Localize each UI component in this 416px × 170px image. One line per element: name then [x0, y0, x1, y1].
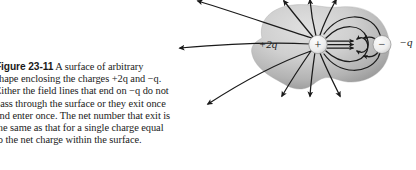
caption-line-1-text: A surface of arbitrary — [55, 61, 143, 72]
figure-caption: Figure 23-11 A surface of arbitrary shap… — [0, 61, 210, 146]
negative-charge: − — [373, 36, 391, 54]
caption-line-1: Figure 23-11 A surface of arbitrary — [0, 61, 210, 73]
figure-number: Figure 23-11 — [0, 61, 53, 72]
figure-panel: + − +2q −q Figure 23-11 A surface of arb… — [0, 0, 416, 170]
negative-charge-symbol: − — [379, 37, 386, 51]
positive-charge: + — [309, 35, 327, 53]
caption-line-3: Either the field lines that end on −q do… — [0, 85, 210, 97]
caption-line-2: shape enclosing the charges +2q and −q. — [0, 73, 210, 85]
caption-line-6: the same as that for a single charge equ… — [0, 122, 210, 134]
positive-charge-symbol: + — [315, 38, 322, 52]
positive-charge-label: +2q — [259, 38, 278, 50]
caption-line-7: to the net charge within the surface. — [0, 134, 210, 146]
caption-line-4: pass through the surface or they exit on… — [0, 98, 210, 110]
negative-charge-label: −q — [400, 36, 413, 48]
caption-line-5: and enter once. The net number that exit… — [0, 110, 210, 122]
